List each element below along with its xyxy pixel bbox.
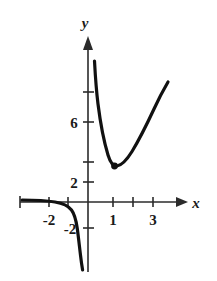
graph-canvas: y x -2 1 3 6 2 -2 [0, 0, 217, 281]
y-tick-label-6: 6 [70, 115, 78, 131]
y-axis-label: y [80, 15, 89, 31]
x-axis-arrow-icon [176, 197, 188, 207]
x-tick-label-1: 1 [109, 212, 117, 228]
graph-figure: y x -2 1 3 6 2 -2 [0, 0, 217, 281]
x-tick-label-neg2: -2 [43, 212, 56, 228]
minimum-point-marker [111, 163, 118, 170]
y-tick-label-2: 2 [70, 175, 78, 191]
y-tick-label-neg2: -2 [64, 221, 77, 237]
x-axis-label: x [191, 195, 200, 211]
curve-right-branch [95, 61, 169, 166]
y-axis-arrow-icon [83, 36, 93, 50]
x-tick-label-3: 3 [149, 212, 157, 228]
